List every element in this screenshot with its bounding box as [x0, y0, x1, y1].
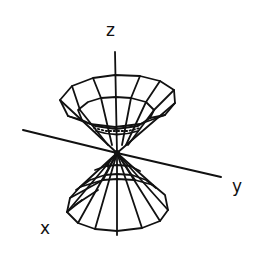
y-axis-label: y [232, 178, 242, 195]
z-axis-label: z [106, 22, 115, 39]
y-axis [117, 153, 221, 177]
lower-cone [67, 153, 168, 235]
z-axis [115, 52, 117, 153]
cone-apex [114, 150, 120, 156]
x-axis-label: x [40, 220, 50, 237]
